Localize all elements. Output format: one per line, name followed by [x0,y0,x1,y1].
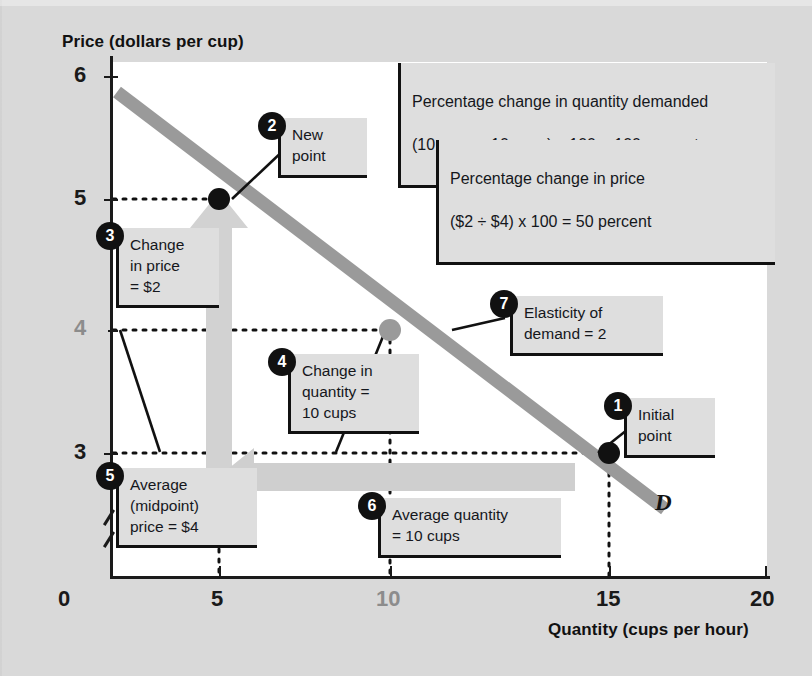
callout-box-7-elasticity: Elasticity of demand = 2 [510,296,663,356]
callout-badge-3[interactable]: 3 [96,222,124,250]
callout-badge-4[interactable]: 4 [268,348,296,376]
callout-badge-5[interactable]: 5 [96,462,124,490]
callout-box-5-average-price: Average (midpoint) price = $4 [116,468,257,548]
y-axis [110,56,113,579]
formula-box-price-line1: Percentage change in price [450,168,764,189]
x-tick-label-10: 10 [376,586,400,612]
x-tick-label-15: 15 [596,586,620,612]
x-tick-label-20: 20 [750,586,774,612]
y-tick-label-3: 3 [74,439,86,465]
y-tick-3 [104,453,118,455]
x-tick-15 [609,566,611,579]
callout-badge-2[interactable]: 2 [258,112,286,140]
callout-badge-6[interactable]: 6 [358,492,386,520]
callout-box-3-change-in-price: Change in price = $2 [116,228,219,308]
demand-curve-label: D [655,490,672,516]
formula-box-price: Percentage change in price ($2 ÷ $4) x 1… [436,140,775,265]
data-point-initial[interactable] [598,442,620,464]
x-tick-10 [390,566,392,579]
callout-box-6-average-quantity: Average quantity = 10 cups [378,498,561,558]
y-tick-5 [104,199,118,201]
x-tick-label-5: 5 [211,586,223,612]
y-tick-4 [108,330,118,332]
x-tick-20 [765,566,767,579]
x-axis [110,576,770,579]
y-tick-label-5: 5 [74,185,86,211]
callout-box-1-initial-point: Initial point [624,398,715,458]
formula-box-price-line2: ($2 ÷ $4) x 100 = 50 percent [450,211,764,232]
y-tick-label-4: 4 [74,315,86,341]
x-axis-title: Quantity (cups per hour) [548,620,749,640]
y-tick-label-6: 6 [74,62,86,88]
x-tick-label-0: 0 [58,586,70,612]
data-point-midpoint[interactable] [379,319,401,341]
formula-box-quantity-line1: Percentage change in quantity demanded [412,91,764,112]
callout-box-2-new-point: New point [278,118,367,178]
callout-badge-7[interactable]: 7 [490,290,518,318]
y-tick-6 [104,76,118,78]
data-point-new[interactable] [208,188,230,210]
x-tick-5 [219,566,221,579]
y-axis-title: Price (dollars per cup) [62,32,244,52]
callout-badge-1[interactable]: 1 [604,392,632,420]
figure-canvas: 6 5 4 3 0 5 10 15 20 Price (dollars per … [0,0,812,676]
callout-box-4-change-in-quantity: Change in quantity = 10 cups [288,354,419,434]
